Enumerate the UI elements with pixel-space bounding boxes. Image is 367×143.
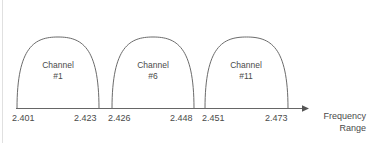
tick-label-2473: 2.473 [265,113,288,124]
tick-label-2448: 2.448 [170,113,193,124]
channel-label-11-line2: #11 [239,71,253,81]
channel-label-11-line1: Channel [230,60,262,70]
channel-label-1-line1: Channel [42,60,74,70]
channel-label-6-line2: #6 [148,71,157,81]
tick-label-2423: 2.423 [74,113,97,124]
axis-title-line1: Frequency [316,110,366,122]
channel-label-1: Channel #1 [28,60,88,82]
channel-label-6-line1: Channel [137,60,169,70]
tick-label-2426: 2.426 [108,113,131,124]
channel-label-1-line2: #1 [53,71,62,81]
channel-label-6: Channel #6 [123,60,183,82]
right-arrow-icon [302,105,309,112]
axis-title-line2: Range [316,122,366,134]
axis-title: Frequency Range [316,110,366,134]
tick-label-2401: 2.401 [12,113,35,124]
channel-spectrum-diagram: Channel #1 Channel #6 Channel #11 2.401 … [0,0,367,143]
tick-label-2451: 2.451 [202,113,225,124]
channel-label-11: Channel #11 [216,60,276,82]
